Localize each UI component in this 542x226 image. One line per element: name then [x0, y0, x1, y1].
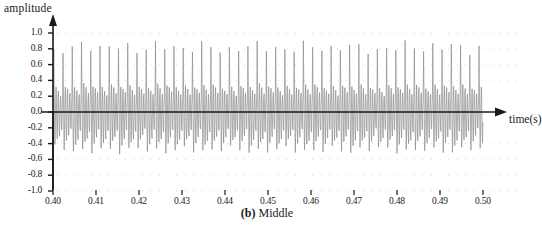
x-tick-label: 0.49	[420, 196, 460, 206]
x-tick-label: 0.47	[334, 196, 374, 206]
x-tick-label: 0.43	[162, 196, 202, 206]
x-tick-label: 0.41	[76, 196, 116, 206]
x-tick-label: 0.48	[377, 196, 417, 206]
y-tick-label: -0.6	[12, 153, 42, 163]
x-tick-label: 0.42	[119, 196, 159, 206]
y-tick-label: -0.4	[12, 138, 42, 148]
x-tick-label: 0.46	[291, 196, 331, 206]
y-tick-label: -1.0	[12, 185, 42, 195]
caption-text: Middle	[259, 206, 294, 220]
y-tick-label: -0.2	[12, 122, 42, 132]
x-axis-arrowhead	[495, 108, 507, 117]
y-tick-label: 1.0	[12, 27, 42, 37]
y-tick-label: -0.8	[12, 169, 42, 179]
y-tick-label: 0.6	[12, 59, 42, 69]
x-tick-label: 0.45	[248, 196, 288, 206]
x-tick-label: 0.44	[205, 196, 245, 206]
y-axis-arrowhead	[49, 14, 57, 26]
waveform-trace	[53, 40, 483, 154]
figure-caption: (b) Middle	[0, 206, 534, 221]
y-tick-label: 0.8	[12, 43, 42, 53]
x-tick-label: 0.40	[33, 196, 73, 206]
y-tick-label: 0.4	[12, 74, 42, 84]
y-tick-label: 0.2	[12, 90, 42, 100]
caption-prefix: (b)	[241, 206, 256, 220]
y-tick-label: 0.0	[12, 106, 42, 116]
x-tick-label: 0.50	[463, 196, 503, 206]
